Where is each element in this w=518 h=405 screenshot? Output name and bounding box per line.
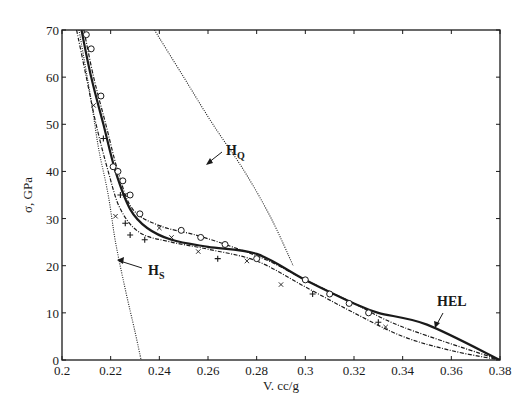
hs-arrowhead	[117, 257, 124, 264]
circle-marker	[222, 242, 228, 248]
annotation-hel: HEL	[434, 294, 467, 328]
hq-label: HQ	[226, 143, 245, 161]
markers-data-circles	[83, 32, 371, 316]
x-marker	[196, 249, 200, 253]
circle-marker	[327, 291, 333, 297]
y-tick-label: 70	[46, 23, 59, 38]
x-marker	[113, 214, 117, 218]
circle-marker	[98, 93, 104, 99]
circle-marker	[254, 256, 260, 262]
annotation-hs: HS	[117, 257, 165, 281]
x-tick-label: 0.36	[440, 363, 463, 378]
x-tick-label: 0.24	[148, 363, 171, 378]
hq-arrowhead	[206, 158, 213, 165]
x-tick-label: 0.26	[197, 363, 220, 378]
circle-marker	[178, 227, 184, 233]
x-tick-label: 0.38	[489, 363, 512, 378]
hs-label: HS	[148, 263, 165, 281]
circle-marker	[88, 46, 94, 52]
y-tick-label: 20	[46, 259, 59, 274]
circle-marker	[110, 164, 116, 170]
plus-marker	[127, 232, 133, 238]
series-upper-dash-dot-fit-circles	[84, 30, 500, 360]
circle-marker	[302, 277, 308, 283]
circle-marker	[346, 300, 352, 306]
series-layer	[77, 30, 500, 360]
y-axis-ticks: 010203040506070	[46, 23, 500, 368]
x-tick-label: 0.32	[343, 363, 366, 378]
hel-label: HEL	[437, 294, 467, 309]
x-marker	[157, 226, 161, 230]
circle-marker	[120, 178, 126, 184]
annotation-hq: HQ	[206, 143, 245, 165]
series-hel-thick-solid-fit	[82, 30, 501, 360]
y-tick-label: 10	[46, 306, 59, 321]
plus-marker	[215, 256, 221, 262]
hs-arrow	[120, 261, 142, 268]
circle-marker	[198, 234, 204, 240]
series-lower-dash-dot-fit-plus-cross	[77, 30, 500, 360]
x-axis-title: V. cc/g	[263, 378, 299, 393]
circle-marker	[115, 168, 121, 174]
hel-arrowhead	[434, 321, 440, 328]
circle-marker	[127, 192, 133, 198]
chart: 0.20.220.240.260.280.30.320.340.360.38 0…	[0, 0, 518, 405]
y-tick-label: 40	[46, 164, 59, 179]
circle-marker	[83, 32, 89, 38]
plus-marker	[142, 237, 148, 243]
x-marker	[279, 282, 283, 286]
markers-layer	[83, 32, 388, 329]
circle-marker	[366, 310, 372, 316]
x-tick-label: 0.28	[245, 363, 268, 378]
x-axis-ticks: 0.20.220.240.260.280.30.320.340.360.38	[54, 30, 512, 378]
plus-marker	[375, 319, 381, 325]
x-tick-label: 0.22	[99, 363, 122, 378]
x-marker	[245, 259, 249, 263]
y-tick-label: 30	[46, 212, 59, 227]
y-axis-title: σ, GPa	[20, 177, 35, 213]
x-tick-label: 0.3	[297, 363, 313, 378]
y-tick-label: 60	[46, 70, 59, 85]
y-tick-label: 0	[53, 353, 60, 368]
y-tick-label: 50	[46, 117, 59, 132]
x-tick-label: 0.34	[391, 363, 414, 378]
circle-marker	[137, 211, 143, 217]
